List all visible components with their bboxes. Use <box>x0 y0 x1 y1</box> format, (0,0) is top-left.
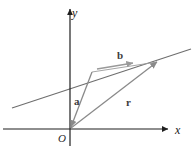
slanted-line <box>12 49 191 108</box>
origin-label: O <box>58 132 66 144</box>
vector-a-label: a <box>74 95 80 107</box>
vector-diagram-canvas: y x O a b r <box>0 0 194 151</box>
x-axis-label: x <box>174 123 181 137</box>
vector-r-label: r <box>126 96 131 108</box>
vector-b-label: b <box>117 49 123 61</box>
vector-diagram-figure: y x O a b r <box>0 0 194 151</box>
y-axis-label: y <box>71 6 78 20</box>
